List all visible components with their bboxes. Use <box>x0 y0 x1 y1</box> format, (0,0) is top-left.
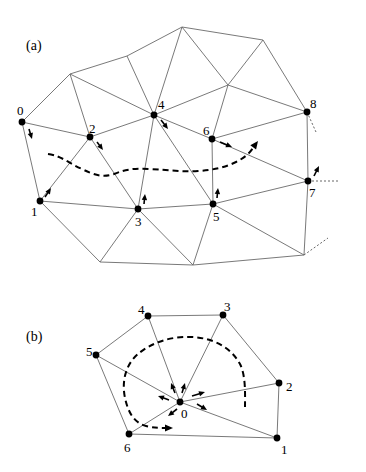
edge-A-4 <box>70 74 154 115</box>
vertex-4 <box>151 112 158 119</box>
edge-G-H <box>193 255 304 265</box>
vertex-0 <box>19 119 26 126</box>
vertex-label: 7 <box>309 185 316 200</box>
direction-arrow-icon <box>28 129 33 139</box>
panel-label: (b) <box>26 329 43 345</box>
edge-8-7 <box>307 112 308 181</box>
edge-5-4 <box>96 316 148 355</box>
edge-3-G <box>138 209 193 265</box>
edge-0-4 <box>148 316 180 402</box>
path-arrowhead-icon <box>250 141 258 150</box>
arrowhead <box>142 194 147 200</box>
vertex-3 <box>135 206 142 213</box>
vertex-label: 1 <box>281 442 288 457</box>
edge-5-7 <box>213 181 308 204</box>
arrowhead <box>215 188 220 194</box>
edge-3-F <box>100 209 138 262</box>
vertex-label: 6 <box>203 123 210 138</box>
edge-A-2 <box>70 74 90 137</box>
vertex-1 <box>274 435 281 442</box>
vertex-5 <box>210 201 217 208</box>
vertex-label: 3 <box>135 214 142 229</box>
vertex-label: 5 <box>86 344 93 359</box>
vertex-6 <box>126 431 133 438</box>
edge-1-F <box>40 201 100 262</box>
vertex-label: 8 <box>310 96 317 111</box>
edges <box>96 315 279 438</box>
direction-arrow-icon <box>215 188 220 198</box>
arrowhead <box>158 396 165 401</box>
edge-E-8 <box>228 85 307 112</box>
edge-1-3 <box>40 201 138 209</box>
vertex-label: 0 <box>17 103 24 118</box>
direction-arrow-icon <box>192 391 205 396</box>
vertex-label: 3 <box>224 299 231 314</box>
vertex-label: 6 <box>124 440 131 455</box>
vertex-6 <box>209 136 216 143</box>
edge-C-D <box>182 27 263 40</box>
direction-arrow-icon <box>142 194 147 204</box>
edge-0-A <box>22 74 70 122</box>
vertex-4 <box>145 313 152 320</box>
vertex-0 <box>177 399 184 406</box>
vertex-label: 4 <box>158 97 165 112</box>
path-arrowhead-icon <box>165 424 173 431</box>
edge-6-5 <box>212 139 213 204</box>
edge-4-3 <box>148 315 223 316</box>
edge-5-G <box>193 204 213 265</box>
direction-arrow-icon <box>158 396 169 401</box>
arrowhead <box>181 383 186 390</box>
edge-C-E <box>182 27 228 85</box>
vertex-label: 5 <box>213 209 220 224</box>
direction-arrow-icon <box>314 166 319 176</box>
vertex-label: 2 <box>286 379 293 394</box>
edge-F-G <box>100 262 193 265</box>
edge-B-4 <box>127 56 154 115</box>
edge-6-8 <box>212 112 307 139</box>
panel-label: (a) <box>26 38 42 54</box>
edge-3-5 <box>138 204 213 209</box>
continuation-stub <box>304 238 328 255</box>
direction-arrow-icon <box>45 188 51 197</box>
vertex-label: 2 <box>89 121 96 136</box>
direction-arrow-icon <box>168 409 177 416</box>
panel-b-star-neighborhood: 0123456(b) <box>26 299 293 457</box>
edge-0-6 <box>129 402 180 434</box>
edge-7-H <box>304 181 308 255</box>
edge-4-3 <box>138 115 154 209</box>
edge-1-6 <box>129 434 277 438</box>
panel-a-triangulation: 012345678(a) <box>17 27 339 265</box>
vertex-2 <box>276 380 283 387</box>
arrowhead <box>28 132 33 139</box>
direction-arrow-icon <box>220 142 232 147</box>
arrowhead <box>198 391 205 396</box>
edge-E-6 <box>212 85 228 139</box>
vertex-label: 4 <box>138 302 145 317</box>
vertex-label: 0 <box>181 406 188 421</box>
edge-2-4 <box>90 115 154 137</box>
edges <box>22 27 308 265</box>
traversal-path <box>48 148 253 176</box>
edge-0-2 <box>180 383 279 402</box>
vertex-7 <box>305 178 312 185</box>
edge-0-1 <box>180 402 277 438</box>
vertex-5 <box>93 352 100 359</box>
edge-E-4 <box>154 85 228 115</box>
vertex-label: 1 <box>31 204 38 219</box>
diagram-canvas: 012345678(a) 0123456(b) <box>0 0 366 472</box>
edge-A-B <box>70 56 127 74</box>
edge-D-E <box>228 40 263 85</box>
vertex-1 <box>37 198 44 205</box>
edge-5-H <box>213 204 304 255</box>
edge-2-1 <box>277 383 279 438</box>
edge-0-3 <box>180 315 223 402</box>
edge-D-8 <box>263 40 307 112</box>
edge-0-5 <box>96 355 180 402</box>
edge-3-2 <box>223 315 279 383</box>
